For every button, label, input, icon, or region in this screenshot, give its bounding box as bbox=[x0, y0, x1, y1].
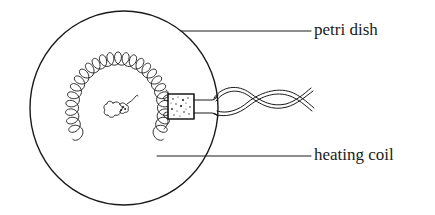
heating-coil-label: heating coil bbox=[314, 146, 394, 163]
specimen-icon bbox=[104, 95, 138, 117]
petri-dish-heating-diagram: petri dish heating coil bbox=[0, 0, 435, 215]
petri-dish-label: petri dish bbox=[314, 21, 378, 38]
twisted-lead-wires bbox=[214, 87, 314, 115]
heating-coil bbox=[66, 52, 171, 140]
connector-block bbox=[168, 94, 194, 119]
